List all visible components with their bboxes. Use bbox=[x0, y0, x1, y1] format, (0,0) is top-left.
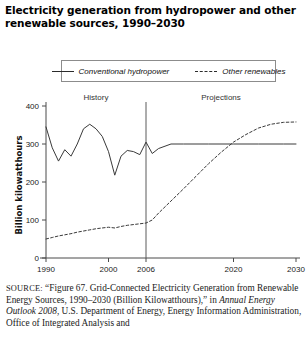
source-prefix: SOURCE: bbox=[6, 284, 43, 293]
history-annotation: History bbox=[84, 93, 109, 102]
x-tick-label: 2020 bbox=[225, 265, 243, 273]
chart-svg: 010020030040019902000200620202030History… bbox=[0, 88, 308, 273]
series-line-renewables bbox=[46, 122, 296, 239]
source-line1: “Figure 67. Grid-Connected Electricity G… bbox=[45, 283, 255, 293]
chart-render-group: 010020030040019902000200620202030History… bbox=[26, 93, 306, 273]
source-line3: , U.S. Department of Energy, Energy bbox=[57, 306, 194, 316]
figure-title: Electricity generation from hydropower a… bbox=[5, 4, 301, 30]
series-line-hydropower bbox=[46, 124, 296, 175]
x-tick-label: 2000 bbox=[100, 265, 118, 273]
y-tick-label: 0 bbox=[35, 254, 40, 263]
x-tick-label: 2030 bbox=[287, 265, 305, 273]
solid-line-icon bbox=[52, 71, 74, 72]
projections-annotation: Projections bbox=[201, 93, 241, 102]
chart-legend: Conventional hydropower Other renewables bbox=[61, 60, 276, 82]
source-note: SOURCE: “Figure 67. Grid-Connected Elect… bbox=[6, 283, 304, 329]
x-tick-label: 2006 bbox=[137, 265, 155, 273]
figure-panel: Electricity generation from hydropower a… bbox=[0, 0, 308, 338]
y-tick-label: 300 bbox=[26, 140, 40, 149]
dashed-line-icon bbox=[195, 71, 217, 72]
legend-label-renewables: Other renewables bbox=[222, 67, 285, 76]
y-tick-label: 100 bbox=[26, 216, 40, 225]
plot-area: Billion kilowatthours 010020030040019902… bbox=[0, 88, 308, 273]
x-tick-label: 1990 bbox=[37, 265, 55, 273]
y-tick-label: 200 bbox=[26, 178, 40, 187]
legend-entry-renewables: Other renewables bbox=[195, 67, 285, 76]
legend-label-hydropower: Conventional hydropower bbox=[79, 67, 170, 76]
legend-entry-hydropower: Conventional hydropower bbox=[52, 67, 170, 76]
y-tick-label: 400 bbox=[26, 102, 40, 111]
